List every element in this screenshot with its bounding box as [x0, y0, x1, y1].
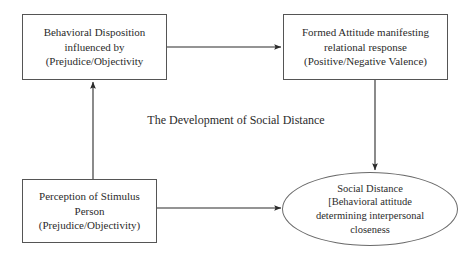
node-social-distance-line-2: [Behavioral attitude	[328, 195, 412, 209]
node-formed-attitude-line-1: Formed Attitude manifesting	[302, 25, 429, 40]
node-perception-of-stimulus-person: Perception of Stimulus Person (Prejudice…	[22, 179, 157, 243]
node-perception-line-1: Perception of Stimulus	[39, 189, 140, 204]
node-social-distance-line-3: determining interpersonal	[316, 209, 424, 223]
node-social-distance-line-1: Social Distance	[337, 182, 403, 196]
node-perception-line-3: (Prejudice/Objectivity)	[39, 218, 140, 233]
diagram-caption: The Development of Social Distance	[128, 113, 344, 128]
node-formed-attitude-line-2: relational response	[324, 40, 407, 55]
node-social-distance-line-4: closeness	[350, 223, 390, 237]
node-behavioral-disposition-line-3: (Prejudice/Objectivity	[46, 54, 144, 69]
node-perception-line-2: Person	[75, 204, 105, 219]
node-behavioral-disposition-line-2: influenced by	[64, 40, 124, 55]
node-behavioral-disposition-line-1: Behavioral Disposition	[44, 25, 146, 40]
node-behavioral-disposition: Behavioral Disposition influenced by (Pr…	[22, 14, 167, 80]
node-social-distance: Social Distance [Behavioral attitude det…	[282, 172, 458, 246]
node-formed-attitude: Formed Attitude manifesting relational r…	[283, 14, 448, 80]
node-formed-attitude-line-3: (Positive/Negative Valence)	[304, 54, 427, 69]
diagram-canvas: Behavioral Disposition influenced by (Pr…	[0, 0, 466, 261]
